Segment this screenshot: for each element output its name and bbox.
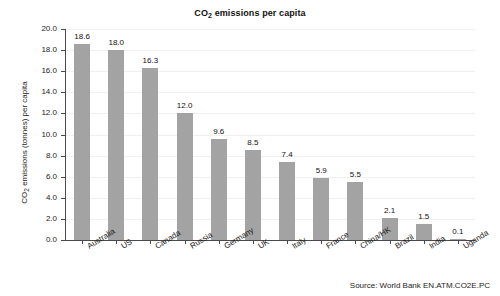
y-tick-label: 4.0: [18, 194, 57, 202]
x-tick-label: US: [120, 244, 124, 251]
bar[interactable]: [74, 44, 90, 240]
bar-value-label: 12.0: [165, 102, 205, 110]
bar[interactable]: [177, 113, 193, 240]
bar[interactable]: [313, 178, 329, 240]
bar[interactable]: [347, 182, 363, 240]
x-tick-label: Germany: [223, 244, 227, 251]
x-tick-label: Australia: [86, 244, 90, 251]
y-tick-label: 2.0: [18, 215, 57, 223]
x-tick-label: Uganda: [462, 244, 466, 251]
chart-title-subscript: 2: [208, 12, 212, 19]
x-tick-mark: [253, 241, 254, 244]
bar[interactable]: [142, 68, 158, 240]
bar[interactable]: [279, 162, 295, 240]
bar-value-label: 0.1: [438, 228, 478, 236]
x-tick-label: India: [428, 244, 432, 251]
bar[interactable]: [211, 139, 227, 240]
y-tick-label: 14.0: [18, 88, 57, 96]
y-tick-label: 18.0: [18, 46, 57, 54]
bar-value-label: 1.5: [404, 213, 444, 221]
y-axis-title-subscript: 2: [23, 188, 30, 192]
bar-value-label: 16.3: [130, 57, 170, 65]
y-tick-label: 6.0: [18, 173, 57, 181]
x-tick-mark: [424, 241, 425, 244]
x-tick-mark: [321, 241, 322, 244]
bar-value-label: 5.5: [335, 171, 375, 179]
chart-title-prefix: CO: [194, 8, 208, 18]
bar[interactable]: [108, 50, 124, 240]
chart-figure: CO2 emissions per capita CO2 emissions (…: [0, 0, 500, 296]
bar-value-label: 18.0: [96, 39, 136, 47]
x-tick-mark: [390, 241, 391, 244]
x-tick-mark: [150, 241, 151, 244]
y-tick-label: 12.0: [18, 109, 57, 117]
x-tick-label: France: [325, 244, 329, 251]
x-tick-mark: [82, 241, 83, 244]
x-tick-mark: [185, 241, 186, 244]
x-tick-mark: [355, 241, 356, 244]
x-tick-label: Brazil: [394, 244, 398, 251]
bar[interactable]: [450, 239, 466, 240]
bar[interactable]: [416, 224, 432, 240]
plot-area: [65, 29, 475, 240]
y-tick-label: 16.0: [18, 67, 57, 75]
source-note: Source: World Bank EN.ATM.CO2E.PC: [350, 281, 490, 290]
y-tick-label: 0.0: [18, 236, 57, 244]
y-tick-label: 20.0: [18, 25, 57, 33]
x-tick-label: Canada: [154, 244, 158, 251]
bar-value-label: 9.6: [199, 128, 239, 136]
bar-value-label: 7.4: [267, 151, 307, 159]
chart-title: CO2 emissions per capita: [0, 8, 500, 18]
bar-value-label: 8.5: [233, 139, 273, 147]
x-tick-label: Italy: [291, 244, 295, 251]
chart-title-suffix: emissions per capita: [212, 8, 306, 18]
x-tick-label: UK: [257, 244, 261, 251]
y-tick-label: 10.0: [18, 131, 57, 139]
x-tick-label: Russia: [189, 244, 193, 251]
x-tick-mark: [219, 241, 220, 244]
x-tick-label: China/HK: [359, 244, 363, 251]
y-tick-label: 8.0: [18, 152, 57, 160]
x-tick-mark: [458, 241, 459, 244]
x-tick-mark: [287, 241, 288, 244]
x-tick-mark: [116, 241, 117, 244]
